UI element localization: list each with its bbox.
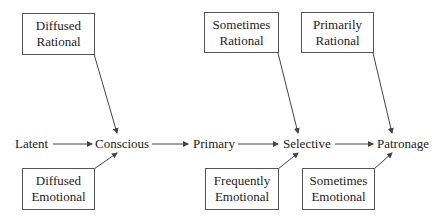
box-line1: Frequently — [206, 173, 278, 189]
frequently-emotional-box: Frequently Emotional — [205, 168, 279, 210]
stage-primary: Primary — [193, 136, 235, 152]
box-line1: Diffused — [23, 18, 94, 34]
primarily-rational-box: Primarily Rational — [301, 12, 374, 53]
box-line1: Diffused — [23, 173, 94, 189]
box-line2: Rational — [205, 33, 278, 49]
box-line1: Primarily — [302, 17, 373, 33]
box-line2: Emotional — [23, 189, 94, 205]
box-line2: Rational — [302, 33, 373, 49]
box-line2: Emotional — [206, 189, 278, 205]
stage-latent: Latent — [15, 136, 48, 152]
stage-patronage: Patronage — [377, 136, 429, 152]
box-line2: Emotional — [303, 189, 374, 205]
sometimes-emotional-box: Sometimes Emotional — [302, 168, 375, 210]
diffused-rational-box: Diffused Rational — [22, 13, 95, 55]
stage-selective: Selective — [283, 136, 331, 152]
stage-conscious: Conscious — [95, 136, 149, 152]
box-line2: Rational — [23, 34, 94, 50]
box-line1: Sometimes — [205, 17, 278, 33]
sometimes-rational-box: Sometimes Rational — [204, 12, 279, 53]
box-line1: Sometimes — [303, 173, 374, 189]
diffused-emotional-box: Diffused Emotional — [22, 168, 95, 210]
